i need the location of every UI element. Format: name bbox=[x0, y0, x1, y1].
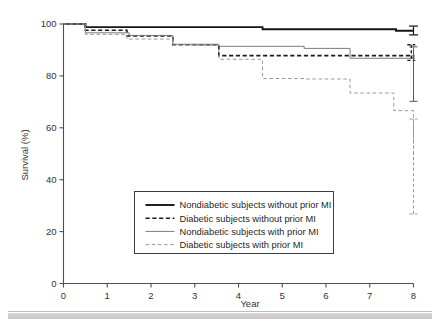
legend-label-d_nomi: Diabetic subjects without prior MI bbox=[180, 214, 316, 224]
chart-legend: Nondiabetic subjects without prior MIDia… bbox=[135, 192, 334, 254]
y-tick-label: 20 bbox=[46, 226, 57, 237]
curve-nd_nomi bbox=[64, 24, 414, 31]
footer-bar bbox=[8, 313, 432, 319]
error-bars bbox=[407, 26, 418, 214]
x-tick-label: 2 bbox=[148, 290, 153, 301]
x-tick-label: 6 bbox=[323, 290, 328, 301]
x-tick-label: 3 bbox=[192, 290, 197, 301]
legend-label-nd_mi: Nondiabetic subjects with prior MI bbox=[180, 227, 319, 237]
curve-nd_mi bbox=[64, 24, 414, 70]
error-bar-nd_mi bbox=[410, 47, 418, 101]
survival-chart-figure: 020406080100012345678 Nondiabetic subjec… bbox=[0, 0, 440, 321]
x-axis-title: Year bbox=[240, 298, 259, 309]
survival-curves bbox=[64, 24, 414, 161]
y-axis-title: Survival (%) bbox=[19, 129, 30, 180]
x-tick-label: 7 bbox=[367, 290, 372, 301]
footer-divider bbox=[8, 311, 432, 312]
legend-label-nd_nomi: Nondiabetic subjects without prior MI bbox=[180, 200, 332, 210]
x-tick-label: 1 bbox=[105, 290, 110, 301]
curve-d_mi bbox=[64, 24, 414, 161]
x-tick-label: 0 bbox=[61, 290, 66, 301]
y-tick-label: 40 bbox=[46, 174, 57, 185]
kaplan-meier-plot: 020406080100012345678 Nondiabetic subjec… bbox=[0, 0, 440, 321]
legend-label-d_mi: Diabetic subjects with prior MI bbox=[180, 240, 303, 250]
x-tick-label: 5 bbox=[280, 290, 285, 301]
y-tick-label: 60 bbox=[46, 122, 57, 133]
y-tick-label: 0 bbox=[51, 278, 56, 289]
y-tick-label: 80 bbox=[46, 70, 57, 81]
tick-labels: 020406080100012345678 bbox=[41, 18, 417, 300]
y-tick-label: 100 bbox=[41, 18, 57, 29]
x-tick-label: 8 bbox=[411, 290, 416, 301]
